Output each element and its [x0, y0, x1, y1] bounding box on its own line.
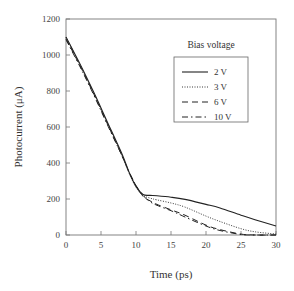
y-tick-label: 800	[47, 86, 61, 96]
legend-label: 10 V	[214, 112, 232, 122]
y-tick-label: 200	[47, 194, 61, 204]
x-tick-label: 20	[202, 240, 212, 250]
x-tick-label: 15	[167, 240, 177, 250]
series-line-10v	[66, 40, 276, 235]
x-tick-label: 5	[99, 240, 104, 250]
series-line-6v	[66, 39, 276, 235]
legend-label: 2 V	[214, 67, 228, 77]
series-line-3v	[66, 37, 276, 234]
y-tick-label: 1000	[42, 50, 61, 60]
legend-box	[174, 57, 248, 122]
x-tick-label: 0	[64, 240, 69, 250]
y-tick-label: 0	[56, 230, 61, 240]
y-tick-label: 400	[47, 158, 61, 168]
y-axis-title: Photocurrent (μA)	[12, 86, 25, 167]
x-tick-label: 25	[237, 240, 247, 250]
legend-label: 3 V	[214, 82, 228, 92]
photocurrent-chart: 020040060080010001200 051015202530 Time …	[0, 0, 294, 291]
legend-title: Bias voltage	[187, 40, 234, 50]
data-series	[66, 37, 276, 235]
x-tick-label: 10	[132, 240, 142, 250]
x-axis: 051015202530	[64, 231, 281, 250]
legend: 2 V3 V6 V10 V	[174, 57, 248, 122]
y-tick-label: 1200	[42, 14, 61, 24]
x-tick-label: 30	[272, 240, 282, 250]
x-axis-title: Time (ps)	[150, 268, 193, 281]
y-tick-label: 600	[47, 122, 61, 132]
legend-label: 6 V	[214, 97, 228, 107]
series-line-2v	[66, 37, 276, 226]
